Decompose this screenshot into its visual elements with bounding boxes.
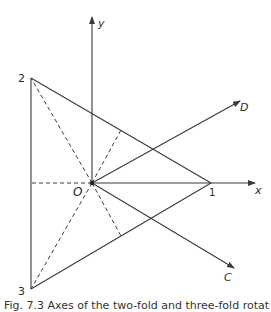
ray-d-label: D: [240, 101, 248, 114]
origin-point: [90, 181, 94, 185]
y-axis-label: y: [97, 17, 105, 30]
vertex-1-label: 1: [209, 187, 215, 198]
dashed-o-to-3: [31, 183, 92, 289]
vertex-2-label: 2: [18, 72, 25, 85]
origin-label: O: [73, 185, 82, 199]
ray-od: [92, 101, 240, 183]
dashed-o-to-side-13: [92, 183, 121, 236]
dashed-o-to-2: [31, 78, 92, 183]
vertex-3-label: 3: [18, 285, 25, 298]
x-axis-label: x: [254, 184, 262, 197]
triangle-side-3-1: [31, 183, 211, 289]
ray-c-label: C: [224, 271, 232, 284]
figure-caption: Fig. 7.3 Axes of the two-fold and three-…: [4, 299, 270, 312]
